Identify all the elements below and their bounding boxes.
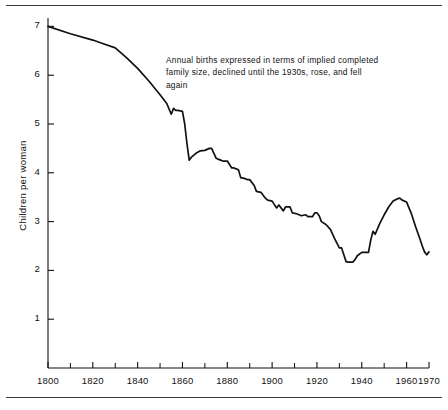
y-tick-marks	[48, 26, 54, 319]
annotation-line-1: Annual births expressed in terms of impl…	[166, 54, 428, 66]
x-tick-marks	[48, 362, 429, 368]
annotation-line-2: family size, declined until the 1930s, r…	[166, 66, 428, 78]
y-tick-label-6: 6	[18, 68, 40, 79]
y-tick-label-1: 1	[18, 312, 40, 323]
chart-annotation: Annual births expressed in terms of impl…	[166, 54, 428, 91]
x-tick-label-1940: 1940	[342, 375, 382, 386]
x-tick-label-1820: 1820	[73, 375, 113, 386]
x-tick-label-1920: 1920	[297, 375, 337, 386]
x-tick-label-1800: 1800	[28, 375, 68, 386]
y-tick-label-5: 5	[18, 117, 40, 128]
x-tick-label-1840: 1840	[118, 375, 158, 386]
x-tick-label-1970: 1970	[409, 375, 448, 386]
y-tick-label-3: 3	[18, 215, 40, 226]
x-tick-label-1880: 1880	[207, 375, 247, 386]
x-tick-label-1900: 1900	[252, 375, 292, 386]
y-tick-label-7: 7	[18, 19, 40, 30]
y-axis-title: Children per woman	[17, 126, 28, 246]
fertility-chart-figure: Children per woman Annual births express…	[0, 0, 448, 410]
y-tick-label-2: 2	[18, 263, 40, 274]
annotation-line-3: again	[166, 79, 428, 91]
y-tick-label-4: 4	[18, 166, 40, 177]
x-tick-label-1860: 1860	[162, 375, 202, 386]
